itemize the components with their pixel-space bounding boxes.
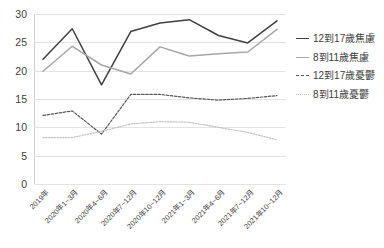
line-chart: 051015202530 2019年2020年1~3月2020年4~6月2020… [0,0,384,248]
legend-item-label: 12到17歲焦慮 [313,33,375,46]
gridline [34,184,286,185]
legend-item[interactable]: 12到17歲憂鬱 [296,70,384,83]
legend-swatch-icon [296,70,309,81]
series-line [43,122,277,140]
y-axis-tick-label: 10 [0,122,27,133]
legend-item-label: 8到11歲焦慮 [313,52,369,65]
legend-item[interactable]: 8到11歲焦慮 [296,52,384,65]
series-lines [34,14,286,184]
y-axis-tick-label: 30 [0,9,27,20]
y-axis-tick-label: 5 [0,151,27,162]
legend-item[interactable]: 8到11歲憂鬱 [296,89,384,102]
legend-item[interactable]: 12到17歲焦慮 [296,33,384,46]
y-axis-tick-label: 20 [0,66,27,77]
legend-item-label: 8到11歲憂鬱 [313,89,369,102]
y-axis-tick-label: 25 [0,37,27,48]
y-axis-tick-label: 0 [0,179,27,190]
legend-swatch-icon [296,33,309,44]
y-axis-tick-label: 15 [0,94,27,105]
plot-area [34,14,286,184]
series-line [43,94,277,134]
chart-legend: 12到17歲焦慮8到11歲焦慮12到17歲憂鬱8到11歲憂鬱 [296,33,384,107]
legend-swatch-icon [296,89,309,100]
legend-swatch-icon [296,52,309,63]
legend-item-label: 12到17歲憂鬱 [313,70,375,83]
series-line [43,29,277,74]
